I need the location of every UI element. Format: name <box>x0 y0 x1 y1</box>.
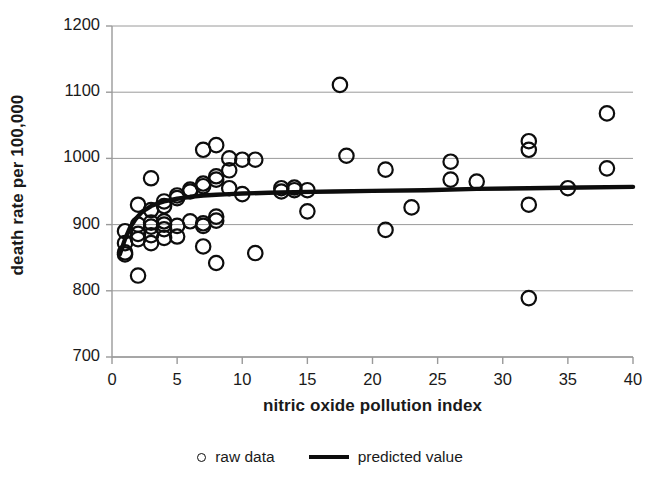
line-marker-icon <box>309 455 349 459</box>
x-axis-tick-label: 25 <box>418 370 458 389</box>
legend-label-predicted-value: predicted value <box>358 448 463 466</box>
x-axis-tick-label: 0 <box>92 370 132 389</box>
data-point-marker <box>600 106 614 120</box>
y-axis-tick-label: 700 <box>48 346 100 365</box>
legend-label-raw-data: raw data <box>215 448 274 466</box>
y-axis-tick-label: 800 <box>48 280 100 299</box>
circle-marker-icon <box>197 453 206 462</box>
chart-legend: raw data predicted value <box>0 448 660 466</box>
data-point-marker <box>131 268 145 282</box>
x-axis-tick-label: 5 <box>157 370 197 389</box>
x-axis-tick-label: 15 <box>287 370 327 389</box>
data-point-marker <box>522 291 536 305</box>
legend-item-predicted-value: predicted value <box>309 448 463 466</box>
data-point-marker <box>339 149 353 163</box>
y-axis-tick-label: 1000 <box>48 147 100 166</box>
data-point-marker <box>378 162 392 176</box>
data-point-marker <box>196 239 210 253</box>
data-point-marker <box>144 171 158 185</box>
y-axis-tick-label: 900 <box>48 214 100 233</box>
data-point-marker <box>600 161 614 175</box>
data-point-marker <box>522 143 536 157</box>
data-point-marker <box>300 204 314 218</box>
data-point-marker <box>248 246 262 260</box>
data-point-marker <box>209 256 223 270</box>
data-point-marker <box>443 155 457 169</box>
x-axis-tick-label: 35 <box>548 370 588 389</box>
data-point-marker <box>404 200 418 214</box>
scatter-chart-figure: death rate per 100,000 nitric oxide poll… <box>0 0 660 503</box>
data-point-marker <box>522 198 536 212</box>
data-point-marker <box>443 172 457 186</box>
data-point-marker <box>209 172 223 186</box>
data-point-marker <box>333 78 347 92</box>
x-axis-tick-label: 20 <box>353 370 393 389</box>
y-axis-tick-label: 1100 <box>48 81 100 100</box>
x-axis-tick-label: 40 <box>613 370 653 389</box>
data-point-marker <box>209 138 223 152</box>
legend-item-raw-data: raw data <box>197 448 274 466</box>
y-axis-tick-label: 1200 <box>48 15 100 34</box>
x-axis-tick-label: 10 <box>222 370 262 389</box>
x-axis-tick-label: 30 <box>483 370 523 389</box>
